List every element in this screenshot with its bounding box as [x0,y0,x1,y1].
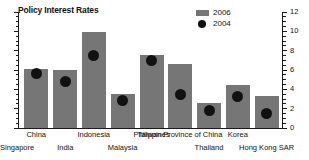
y-tick-left-5 [16,79,19,80]
y-axis-left-line [18,12,19,129]
y-tick-left-9.5 [16,36,19,37]
dot-india [60,76,71,87]
y-tick-label-10: 10 [290,27,298,35]
x-label-korea: Korea [228,131,248,139]
y-tick-left-3 [16,99,19,100]
y-tick-right-10.5 [283,26,286,27]
y-tick-right-6.5 [283,65,286,66]
x-label-malaysia: Malaysia [108,144,138,152]
y-tick-label-4: 4 [290,85,294,93]
y-tick-right-5 [283,79,286,80]
y-tick-left-2 [14,108,18,109]
chart-container: Policy Interest Rates 2006 2004 02468101… [0,0,309,160]
x-label-hong-kong-sar: Hong Kong SAR [239,144,294,152]
y-tick-left-10 [14,31,18,32]
y-tick-left-8 [14,50,18,51]
y-tick-right-7.5 [283,55,286,56]
y-tick-label-8: 8 [290,47,294,55]
y-tick-left-2.5 [16,103,19,104]
dot-thailand [175,89,186,100]
y-tick-right-0.5 [283,123,286,124]
x-label-thailand: Thailand [195,144,224,152]
y-tick-label-6: 6 [290,66,294,74]
y-tick-left-5.5 [16,74,19,75]
y-tick-left-10.5 [16,26,19,27]
y-tick-left-12 [14,12,18,13]
y-tick-right-4.5 [283,84,286,85]
dot-korea [232,91,243,102]
y-tick-right-3 [283,99,286,100]
y-tick-left-7.5 [16,55,19,56]
y-tick-right-1 [283,118,286,119]
y-tick-right-11.5 [283,16,286,17]
dot-philippines [146,55,157,66]
y-tick-left-7 [16,60,19,61]
plot-area: 024681012 [18,12,283,128]
x-label-china: China [26,131,46,139]
y-tick-right-1.5 [283,113,286,114]
y-tick-right-8.5 [283,45,286,46]
y-tick-right-2 [283,108,287,109]
y-tick-label-0: 0 [290,124,294,132]
y-tick-right-8 [283,50,287,51]
y-tick-left-1 [16,118,19,119]
y-tick-right-0 [283,128,287,129]
x-label-india: India [57,144,73,152]
y-tick-left-4.5 [16,84,19,85]
y-tick-left-11 [16,21,19,22]
y-tick-right-9.5 [283,36,286,37]
y-tick-label-2: 2 [290,105,294,113]
y-tick-left-8.5 [16,45,19,46]
y-tick-right-4 [283,89,287,90]
y-tick-left-4 [14,89,18,90]
dot-hong-kong-sar [204,105,215,116]
y-tick-right-12 [283,12,287,13]
x-axis-line [18,128,283,129]
y-tick-left-3.5 [16,94,19,95]
x-label-indonesia: Indonesia [77,131,110,139]
y-tick-left-6 [14,70,18,71]
y-tick-right-7 [283,60,286,61]
y-tick-left-6.5 [16,65,19,66]
y-tick-left-0.5 [16,123,19,124]
y-axis-right-line [282,12,283,129]
y-tick-left-0 [14,128,18,129]
y-tick-right-6 [283,70,287,71]
y-tick-right-10 [283,31,287,32]
y-tick-right-5.5 [283,74,286,75]
bar-indonesia [82,32,106,128]
y-tick-label-12: 12 [290,8,298,16]
y-tick-left-1.5 [16,113,19,114]
y-tick-right-11 [283,21,286,22]
y-tick-right-2.5 [283,103,286,104]
y-tick-right-9 [283,41,286,42]
x-label-taiwan-province-of-china: Taiwan Province of China [138,131,223,139]
y-tick-left-11.5 [16,16,19,17]
y-tick-left-9 [16,41,19,42]
y-tick-right-3.5 [283,94,286,95]
x-label-singapore: Singapore [0,144,34,152]
